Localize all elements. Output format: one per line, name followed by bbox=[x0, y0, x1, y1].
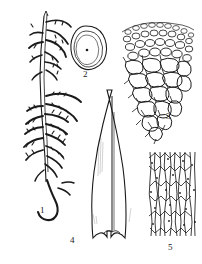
figure-label-1: 1 bbox=[40, 206, 45, 215]
plate-artwork bbox=[0, 0, 202, 264]
figure-label-2: 2 bbox=[83, 70, 88, 79]
figure-label-3: 3 bbox=[166, 112, 171, 121]
figure-5-basal-cells bbox=[148, 152, 196, 236]
figure-label-4: 4 bbox=[70, 236, 75, 245]
figure-2-spore-body bbox=[71, 26, 107, 70]
botanical-plate: 1 2 3 4 5 Whole moss plant (gametophyte)… bbox=[0, 0, 202, 264]
figure-label-5: 5 bbox=[168, 243, 173, 252]
